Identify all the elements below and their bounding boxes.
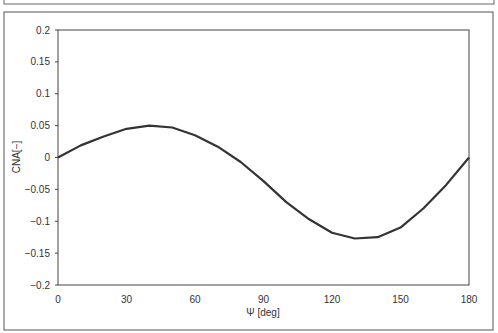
cna-series-line [58, 126, 469, 239]
x-tick-label: 0 [55, 294, 61, 305]
x-tick-label: 90 [258, 294, 270, 305]
y-axis-ticks: 0.20.150.10.050−0.05−0.1−0.15−0.2 [25, 25, 58, 291]
plot-area [58, 30, 469, 285]
x-tick-label: 180 [461, 294, 478, 305]
y-axis-label: CNA[−] [11, 141, 22, 174]
y-tick-label: 0.2 [36, 25, 50, 36]
y-tick-label: −0.05 [25, 184, 51, 195]
x-tick-label: 120 [324, 294, 341, 305]
x-tick-label: 60 [189, 294, 201, 305]
x-tick-label: 30 [121, 294, 133, 305]
y-tick-label: 0 [44, 152, 50, 163]
y-tick-label: −0.15 [25, 248, 51, 259]
x-axis-ticks: 0306090120150180 [55, 294, 478, 305]
chart: 0.20.150.10.050−0.05−0.1−0.15−0.2 030609… [0, 0, 498, 333]
y-tick-label: 0.05 [31, 120, 51, 131]
x-tick-label: 150 [392, 294, 409, 305]
y-tick-label: −0.2 [30, 280, 50, 291]
top-panel-border [4, 0, 494, 4]
y-tick-label: 0.15 [31, 56, 51, 67]
y-tick-label: −0.1 [30, 216, 50, 227]
x-axis-label: Ψ [deg] [246, 307, 280, 318]
chart-frame [4, 12, 493, 330]
y-tick-label: 0.1 [36, 88, 50, 99]
